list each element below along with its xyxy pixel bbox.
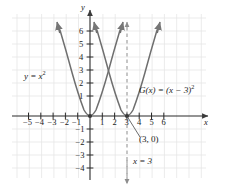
curve-label-g-of-x: G(x) = (x − 3)2 xyxy=(139,84,194,95)
y-axis-label: y xyxy=(81,3,85,12)
curve-label-g-exponent: 2 xyxy=(191,83,194,90)
x-tick-label-6: 6 xyxy=(162,118,166,127)
y-tick-label--4: −4 xyxy=(76,164,85,173)
curve-label-y-equals-x-squared-text: y = x xyxy=(24,71,43,81)
x-tick-label-2: 2 xyxy=(113,118,117,127)
vertex-dot-origin xyxy=(88,114,92,118)
y-tick-label-4: 4 xyxy=(79,53,83,62)
y-tick-label-6: 6 xyxy=(79,27,83,36)
curve-label-g-of-x-text: G(x) = (x − 3) xyxy=(139,85,191,95)
x-tick-label-1: 1 xyxy=(100,118,104,127)
vertex-point-label: (3, 0) xyxy=(139,135,159,144)
y-tick-label--2: −2 xyxy=(76,138,85,147)
curve-label-y-equals-x-squared: y = x2 xyxy=(24,70,46,81)
x-tick-label-3: 3 xyxy=(125,118,129,127)
x-axis-label: x xyxy=(204,118,208,127)
y-tick-label--3: −3 xyxy=(76,151,85,160)
y-tick-label--1: −1 xyxy=(76,125,85,134)
x-tick-label--4: −4 xyxy=(35,118,44,127)
grid-lines xyxy=(12,14,206,178)
graph-figure: x y −5 −4 −3 −2 −1 1 2 3 4 5 6 6 5 4 3 2… xyxy=(0,0,226,190)
curve-label-y-exponent: 2 xyxy=(43,69,46,76)
y-tick-label-2: 2 xyxy=(79,79,83,88)
y-tick-label-1: 1 xyxy=(79,92,83,101)
x-tick-label-5: 5 xyxy=(150,118,154,127)
y-tick-label-5: 5 xyxy=(79,40,83,49)
graph-canvas xyxy=(0,0,226,190)
x-tick-label-4: 4 xyxy=(137,118,141,127)
y-tick-label-3: 3 xyxy=(79,66,83,75)
x-tick-label--3: −3 xyxy=(48,118,57,127)
x-tick-label--5: −5 xyxy=(23,118,32,127)
x-tick-label--2: −2 xyxy=(60,118,69,127)
vertical-line-equation-label: x = 3 xyxy=(133,157,152,166)
